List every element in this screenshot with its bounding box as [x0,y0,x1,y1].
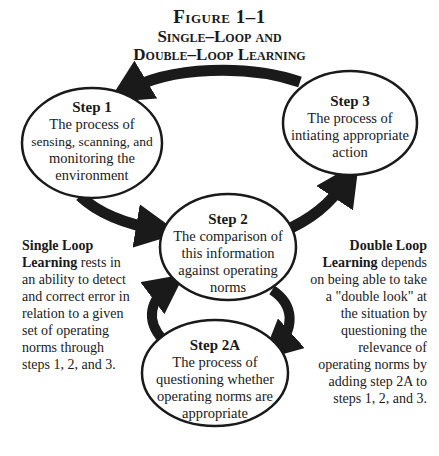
double-loop-text: depends [378,255,427,270]
single-loop-text: relation to a given [22,305,147,322]
arrow-step3-to-step1 [125,70,300,92]
node-step3-text: The process of [280,110,420,127]
double-loop-text: the situation by [295,305,427,322]
single-loop-term: Learning [22,255,77,270]
arrow-step1-to-step2 [80,196,160,230]
double-loop-term: Learning [322,255,377,270]
double-loop-text: on being able to take [295,271,427,288]
single-loop-text: and correct error in [22,288,147,305]
single-loop-note: Single Loop Learning rests in an ability… [22,237,147,373]
node-step1-text: The process of [17,116,167,133]
double-loop-text: adding step 2A to [295,373,427,390]
double-loop-text: operating norms by [295,356,427,373]
node-step1-text: sensing, scanning, and [17,133,167,150]
double-loop-text: questioning the [295,322,427,339]
single-loop-term: Single Loop [22,238,93,253]
node-step1-label: Step 1 [17,99,167,116]
node-step2a-text: The process of [140,354,290,371]
single-loop-text: an ability to detect [22,271,147,288]
double-loop-text: relevance of [295,339,427,356]
node-step2a-text: appropriate [140,405,290,422]
node-step1: Step 1 The process of sensing, scanning,… [17,99,167,184]
double-loop-note: Double Loop Learning depends on being ab… [295,237,427,407]
node-step2-text: norms [158,279,298,296]
node-step2-text: against operating [158,262,298,279]
node-step2a-text: operating norms are [140,388,290,405]
node-step2a: Step 2A The process of questioning wheth… [140,337,290,422]
node-step1-text: monitoring the [17,150,167,167]
node-step2a-label: Step 2A [140,337,290,354]
node-step2-text: this information [158,245,298,262]
single-loop-text: set of operating [22,322,147,339]
double-loop-text: steps 1, 2, and 3. [295,390,427,407]
node-step3-label: Step 3 [280,93,420,110]
node-step2: Step 2 The comparison of this informatio… [158,211,298,296]
node-step2-text: The comparison of [158,228,298,245]
double-loop-text: a "double look" at [295,288,427,305]
node-step1-text: environment [17,167,167,184]
single-loop-text: rests in [77,255,121,270]
node-step3-text: action [280,144,420,161]
node-step2-label: Step 2 [158,211,298,228]
double-loop-term: Double Loop [350,238,427,253]
node-step3-text: intiating appropriate [280,127,420,144]
single-loop-text: steps 1, 2, and 3. [22,356,147,373]
node-step3: Step 3 The process of intiating appropri… [280,93,420,161]
node-step2a-text: questioning whether [140,371,290,388]
single-loop-text: norms through [22,339,147,356]
